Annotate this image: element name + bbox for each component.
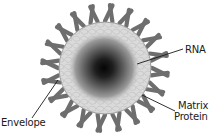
spike-glycoprotein — [81, 110, 84, 126]
spike-glycoprotein — [98, 114, 101, 130]
matrix-protein-label-line2: Protein — [174, 111, 208, 122]
spike-glycoprotein — [151, 73, 167, 76]
matrix-protein-label-line1: Matrix — [177, 100, 208, 111]
virus-diagram: RNA Matrix Protein Envelope — [0, 0, 219, 140]
matrix-protein-label: Matrix Protein — [177, 100, 208, 122]
spike-glycoprotein — [42, 61, 58, 64]
rna-core — [68, 32, 140, 104]
spike-glycoprotein — [47, 44, 63, 47]
spike-glycoprotein — [147, 89, 163, 92]
rna-label: RNA — [185, 44, 206, 55]
spike-glycoprotein — [126, 10, 129, 26]
spike-glycoprotein — [110, 5, 113, 21]
envelope-label: Envelope — [1, 117, 46, 128]
